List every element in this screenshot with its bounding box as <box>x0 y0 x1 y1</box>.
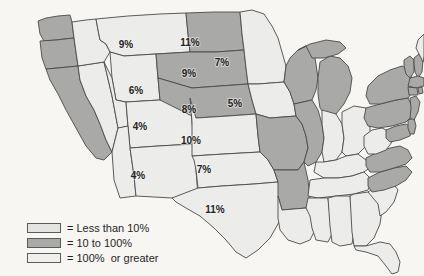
pct-label-wyoming: 6% <box>129 85 144 96</box>
legend: = Less than 10% = 10 to 100% = 100% or g… <box>27 221 199 266</box>
pct-label-oklahoma: 7% <box>197 164 212 175</box>
legend-label-low: = Less than 10% <box>67 222 149 234</box>
legend-label-mid: = 10 to 100% <box>67 237 132 249</box>
pct-label-colorado: 4% <box>133 121 148 132</box>
legend-label-high: = 100% or greater <box>67 252 158 264</box>
pct-label-minnesota: 7% <box>215 57 230 68</box>
state-florida[interactable] <box>354 242 400 274</box>
pct-label-kansas: 10% <box>181 135 201 146</box>
pct-label-montana: 9% <box>119 39 134 50</box>
state-rhode-island[interactable] <box>418 87 423 94</box>
legend-swatch-high <box>27 253 61 263</box>
pct-label-nebraska: 8% <box>182 104 197 115</box>
legend-row-low: = Less than 10% <box>27 221 199 235</box>
state-massachusetts[interactable] <box>408 76 424 88</box>
legend-row-high: = 100% or greater <box>27 251 199 265</box>
state-new-jersey[interactable] <box>410 96 420 120</box>
state-connecticut[interactable] <box>408 87 418 95</box>
pct-label-new-mexico: 4% <box>131 170 146 181</box>
legend-swatch-low <box>27 223 61 233</box>
state-michigan-lower[interactable] <box>318 56 352 116</box>
pct-label-iowa: 5% <box>228 98 243 109</box>
pct-label-texas: 11% <box>205 204 225 215</box>
state-delaware[interactable] <box>408 118 416 134</box>
state-washington[interactable] <box>38 15 74 41</box>
state-montana[interactable] <box>96 13 190 56</box>
legend-swatch-mid <box>27 238 61 248</box>
state-indiana[interactable] <box>322 110 344 162</box>
pct-label-north-dakota: 11% <box>180 37 200 48</box>
state-oregon[interactable] <box>40 38 78 69</box>
legend-row-mid: = 10 to 100% <box>27 236 199 250</box>
pct-label-south-dakota: 9% <box>182 68 197 79</box>
map-figure: 9% 6% 11% 9% 7% 5% 8% 10% 4% 4% 7% 11% =… <box>0 0 424 276</box>
state-minnesota[interactable] <box>240 10 286 84</box>
